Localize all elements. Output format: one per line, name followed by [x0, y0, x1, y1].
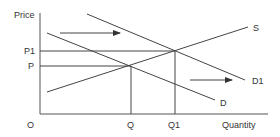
origin-label: O: [27, 120, 34, 130]
x-axis-label: Quantity: [222, 120, 256, 130]
demand-shifted-label: D1: [252, 76, 264, 86]
supply-label: S: [253, 23, 259, 33]
demand-shifted-curve: [87, 14, 245, 80]
y-axis-label: Price: [14, 10, 35, 20]
demand-label: D: [220, 98, 227, 108]
supply-demand-diagram: Price Quantity O P1 P Q Q1 S D D1: [0, 0, 280, 137]
quantity-label-q1: Q1: [168, 120, 180, 130]
price-label-p1: P1: [24, 46, 35, 56]
quantity-label-q: Q: [127, 120, 134, 130]
supply-curve: [47, 27, 248, 92]
price-label-p: P: [28, 61, 34, 71]
